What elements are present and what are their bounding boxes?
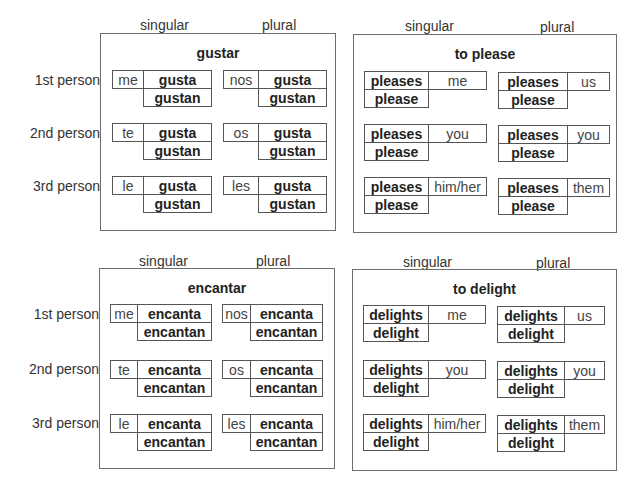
verb-plural-cell: please [364,89,429,108]
row-label-3rd-person: 3rd person [8,178,100,194]
panel-title: to please [354,46,616,62]
verb-plural-cell: encantan [250,432,323,451]
verb-singular-cell: encanta [250,304,323,323]
pronoun-cell: us [567,72,610,91]
verb-plural-cell: gustan [143,88,212,107]
verb-plural-cell: please [364,195,429,214]
pronoun-cell: him/her [428,177,487,196]
column-header-plural: plural [262,17,296,33]
verb-singular-cell: encanta [137,360,212,379]
pronoun-cell: os [223,123,259,142]
pronoun-cell: me [428,71,487,90]
row-label-1st-person: 1st person [7,306,99,322]
verb-singular-cell: delights [363,305,429,324]
verb-singular-cell: pleases [364,177,429,196]
pronoun-cell: you [428,360,486,379]
verb-plural-cell: delight [363,378,429,397]
verb-singular-cell: encanta [137,304,212,323]
verb-singular-cell: delights [497,306,565,325]
pronoun-cell: te [112,123,144,142]
verb-plural-cell: delight [363,323,429,342]
row-label-2nd-person: 2nd person [8,125,100,141]
pronoun-cell: os [222,360,251,379]
pronoun-cell: te [110,360,138,379]
verb-singular-cell: pleases [364,71,429,90]
verb-plural-cell: encantan [250,322,323,341]
verb-singular-cell: gusta [258,123,327,142]
pronoun-cell: les [222,414,251,433]
pronoun-cell: you [564,361,605,380]
verb-plural-cell: encantan [137,432,212,451]
pronoun-cell: nos [222,304,251,323]
verb-plural-cell: encantan [250,378,323,397]
verb-singular-cell: delights [363,360,429,379]
verb-singular-cell: delights [363,414,429,433]
verb-singular-cell: encanta [250,360,323,379]
verb-plural-cell: encantan [137,378,212,397]
column-header-singular: singular [140,17,189,33]
pronoun-cell: you [567,125,610,144]
column-header-singular: singular [139,253,188,269]
pronoun-cell: les [223,176,259,195]
verb-plural-cell: please [498,90,568,109]
pronoun-cell: you [428,124,487,143]
verb-plural-cell: gustan [258,141,327,160]
verb-singular-cell: pleases [364,124,429,143]
column-header-plural: plural [540,19,574,35]
verb-plural-cell: gustan [143,141,212,160]
verb-singular-cell: encanta [137,414,212,433]
pronoun-cell: me [110,304,138,323]
pronoun-cell: le [110,414,138,433]
verb-singular-cell: pleases [498,178,568,197]
verb-plural-cell: please [498,196,568,215]
verb-singular-cell: delights [497,415,565,434]
column-header-plural: plural [256,253,290,269]
panel-title: gustar [101,45,335,61]
verb-singular-cell: pleases [498,72,568,91]
verb-singular-cell: gusta [258,176,327,195]
verb-singular-cell: gusta [143,176,212,195]
verb-plural-cell: encantan [137,322,212,341]
panel-title: encantar [100,280,334,296]
verb-plural-cell: please [364,142,429,161]
verb-plural-cell: delight [497,379,565,398]
panel-title: to delight [353,281,616,297]
verb-plural-cell: delight [363,432,429,451]
column-header-singular: singular [405,18,454,34]
column-header-singular: singular [403,254,452,270]
verb-singular-cell: gusta [258,70,327,89]
pronoun-cell: us [564,306,605,325]
verb-singular-cell: gusta [143,123,212,142]
verb-singular-cell: encanta [250,414,323,433]
pronoun-cell: them [567,178,610,197]
row-label-2nd-person: 2nd person [7,361,99,377]
verb-singular-cell: pleases [498,125,568,144]
verb-plural-cell: gustan [258,88,327,107]
verb-plural-cell: delight [497,433,565,452]
verb-plural-cell: delight [497,324,565,343]
verb-singular-cell: delights [497,361,565,380]
verb-plural-cell: please [498,143,568,162]
pronoun-cell: me [428,305,486,324]
pronoun-cell: le [112,176,144,195]
pronoun-cell: them [564,415,605,434]
verb-singular-cell: gusta [143,70,212,89]
pronoun-cell: me [112,70,144,89]
row-label-1st-person: 1st person [8,72,100,88]
verb-plural-cell: gustan [143,194,212,213]
pronoun-cell: him/her [428,414,486,433]
verb-plural-cell: gustan [258,194,327,213]
row-label-3rd-person: 3rd person [7,415,99,431]
pronoun-cell: nos [223,70,259,89]
